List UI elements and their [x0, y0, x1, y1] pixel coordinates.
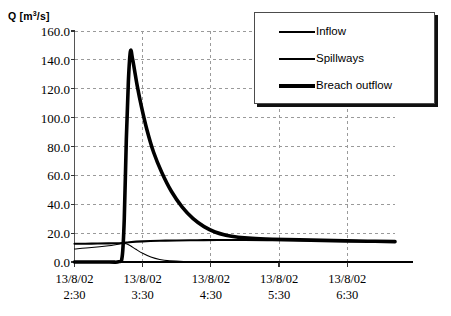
legend-item-breach-outflow[interactable]: Breach outflow — [255, 75, 434, 97]
legend-line-mark — [279, 31, 315, 33]
line-swatch-thin-icon — [279, 58, 315, 59]
legend-item-spillways[interactable]: Spillways — [255, 48, 434, 70]
x-tick-time: 6:30 — [302, 288, 392, 304]
x-tick-date: 13/8/02 — [302, 272, 392, 288]
legend-line-mark — [279, 58, 315, 59]
chart-container: Q [m3/s] 0.020.040.060.080.0100.0120.014… — [0, 0, 451, 316]
legend-label: Spillways — [316, 53, 364, 65]
x-axis-tick-label: 13/8/026:30 — [302, 272, 392, 303]
chart-legend: InflowSpillwaysBreach outflow — [254, 12, 435, 104]
legend-item-inflow[interactable]: Inflow — [255, 21, 434, 43]
line-swatch-thick-icon — [279, 84, 315, 88]
legend-label: Breach outflow — [316, 80, 392, 92]
legend-label: Inflow — [316, 26, 346, 38]
line-swatch-medium-icon — [279, 31, 315, 33]
legend-line-mark — [279, 84, 315, 88]
